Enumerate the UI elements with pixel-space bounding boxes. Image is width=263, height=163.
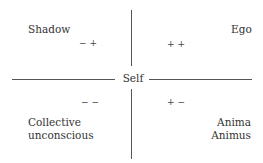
sign-bottom-left: − − [81, 97, 99, 107]
quadrant-label-shadow: Shadow [28, 23, 70, 36]
sign-bottom-right: + − [167, 97, 185, 107]
quadrant-label-anima: Anima [217, 116, 251, 129]
horizontal-axis-right [149, 79, 252, 80]
horizontal-axis-left [12, 79, 115, 80]
quadrant-label-unconscious: unconscious [28, 129, 94, 142]
quadrant-label-ego: Ego [231, 23, 252, 36]
vertical-axis-bottom [131, 89, 132, 159]
sign-top-left: − + [79, 38, 97, 48]
quadrant-label-animus: Animus [211, 129, 251, 142]
center-label-self: Self [118, 72, 148, 85]
quadrant-label-collective: Collective [28, 116, 81, 129]
sign-top-right: + + [167, 39, 185, 49]
vertical-axis-top [131, 10, 132, 66]
